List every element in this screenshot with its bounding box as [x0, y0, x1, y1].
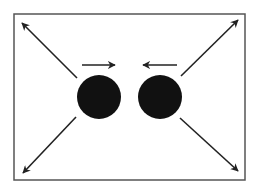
- arrow-up-right-icon: [181, 20, 238, 76]
- frame-border: [14, 14, 245, 180]
- left-ball: [77, 75, 121, 119]
- arrow-up-left-icon: [22, 23, 77, 78]
- arrow-down-left-icon: [23, 117, 76, 173]
- diagram-canvas: [0, 0, 256, 187]
- right-ball: [138, 75, 182, 119]
- arrow-down-right-icon: [180, 118, 238, 171]
